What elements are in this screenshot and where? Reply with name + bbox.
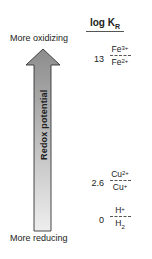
couple-fe-oxidized: Fe3+ xyxy=(108,44,132,54)
redox-potential-label: Redox potential xyxy=(39,89,49,160)
couple-fe: Fe3+ Fe2+ xyxy=(108,44,132,67)
couple-cu: Cu2+ Cu+ xyxy=(108,169,132,192)
more-reducing-label: More reducing xyxy=(10,233,68,243)
couple-cu-oxidized: Cu2+ xyxy=(108,169,132,179)
couple-fe-value: 13 xyxy=(86,54,104,64)
couple-fe-reduced: Fe2+ xyxy=(108,57,132,67)
more-oxidizing-label: More oxidizing xyxy=(10,33,68,43)
couple-h-divider xyxy=(110,216,131,217)
header-subscript: R xyxy=(115,23,120,30)
couple-cu-value: 2.6 xyxy=(80,178,104,188)
log-kr-header: log KR xyxy=(86,17,124,32)
couple-h-oxidized: H+ xyxy=(108,205,132,215)
couple-cu-divider xyxy=(110,180,131,181)
couple-h-value: 0 xyxy=(86,215,104,225)
couple-fe-divider xyxy=(110,55,131,56)
couple-cu-reduced: Cu+ xyxy=(108,182,132,192)
header-text: log K xyxy=(90,17,115,28)
couple-h: H+ H2 xyxy=(108,205,132,232)
couple-h-reduced: H2 xyxy=(108,218,132,232)
